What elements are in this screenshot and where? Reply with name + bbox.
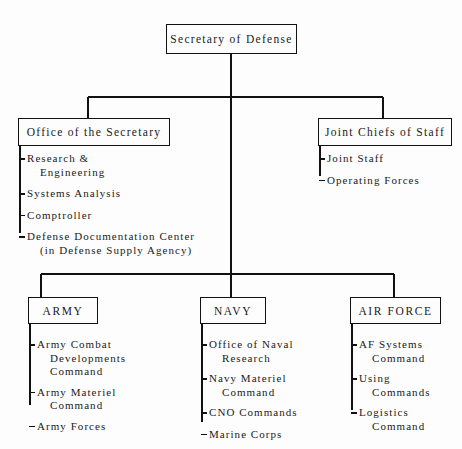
list-tick	[319, 180, 325, 182]
list-item[interactable]: CNO Commands	[201, 406, 298, 420]
list-item[interactable]: Joint Staff	[319, 152, 420, 166]
item-line-1: Marine Corps	[209, 428, 282, 440]
list-item[interactable]: Comptroller	[19, 209, 195, 223]
list-item[interactable]: Army Combat Developments Command	[29, 338, 126, 379]
list-item[interactable]: AF Systems Command	[351, 338, 431, 365]
list-tick	[19, 236, 25, 238]
node-army[interactable]: ARMY	[28, 297, 98, 324]
node-label: Secretary of Defense	[170, 33, 292, 45]
item-line-1: Operating Forces	[327, 174, 420, 186]
node-label: NAVY	[214, 305, 252, 317]
item-line-1: Defense Documentation Center	[27, 230, 195, 242]
node-label: ARMY	[43, 305, 84, 317]
list-item[interactable]: Logistics Command	[351, 406, 431, 433]
sub-list-navy: Office of Naval Research Navy Materiel C…	[201, 324, 298, 441]
list-item[interactable]: Operating Forces	[319, 174, 420, 188]
node-office-of-the-secretary[interactable]: Office of the Secretary	[18, 118, 170, 146]
list-item[interactable]: Research & Engineering	[19, 152, 195, 179]
sub-list-army: Army Combat Developments Command Army Ma…	[29, 324, 126, 433]
item-line-2: (in Defense Supply Agency)	[27, 244, 195, 258]
list-tick	[29, 344, 35, 346]
item-line-1: Army Materiel	[37, 386, 116, 398]
node-secretary-of-defense[interactable]: Secretary of Defense	[166, 24, 297, 54]
list-tick	[319, 158, 325, 160]
list-tick	[29, 426, 35, 428]
item-line-1: AF Systems	[359, 338, 423, 350]
item-line-1: CNO Commands	[209, 406, 298, 418]
list-item[interactable]: Army Materiel Command	[29, 386, 126, 413]
item-line-2: Developments	[37, 352, 126, 366]
list-item[interactable]: Using Commands	[351, 372, 431, 399]
item-line-2: Research	[209, 352, 298, 366]
item-line-1: Logistics	[359, 406, 409, 418]
list-tick	[201, 378, 207, 380]
list-item[interactable]: Marine Corps	[201, 428, 298, 442]
node-navy[interactable]: NAVY	[200, 297, 266, 324]
item-line-1: Comptroller	[27, 209, 92, 221]
node-label: Joint Chiefs of Staff	[325, 126, 445, 138]
list-tick	[19, 158, 25, 160]
item-line-1: Systems Analysis	[27, 187, 121, 199]
sub-list-air-force: AF Systems Command Using Commands Logist…	[351, 324, 431, 433]
list-item[interactable]: Systems Analysis	[19, 187, 195, 201]
item-line-2: Command	[37, 399, 126, 413]
list-tick	[19, 215, 25, 217]
list-tick	[19, 193, 25, 195]
list-item[interactable]: Navy Materiel Command	[201, 372, 298, 399]
org-chart: Secretary of Defense Office of the Secre…	[0, 0, 462, 449]
list-tick	[351, 378, 357, 380]
item-line-1: Army Combat	[37, 338, 112, 350]
item-line-2: Commands	[359, 386, 431, 400]
item-line-1: Using	[359, 372, 391, 384]
item-line-2: Command	[209, 386, 298, 400]
sub-list-office-of-the-secretary: Research & Engineering Systems Analysis …	[19, 146, 195, 257]
list-tick	[29, 392, 35, 394]
item-line-1: Navy Materiel	[209, 372, 287, 384]
list-tick	[201, 434, 207, 436]
item-line-2: Engineering	[27, 166, 195, 180]
item-line-1: Research &	[27, 152, 89, 164]
item-line-1: Army Forces	[37, 420, 106, 432]
list-tick	[201, 412, 207, 414]
item-line-3: Command	[37, 365, 126, 379]
list-item[interactable]: Defense Documentation Center (in Defense…	[19, 230, 195, 257]
node-label: AIR FORCE	[358, 305, 432, 317]
item-line-1: Joint Staff	[327, 152, 384, 164]
item-line-2: Command	[359, 420, 431, 434]
list-item[interactable]: Army Forces	[29, 420, 126, 434]
list-tick	[351, 344, 357, 346]
node-label: Office of the Secretary	[27, 126, 162, 138]
item-line-2: Command	[359, 352, 431, 366]
node-joint-chiefs-of-staff[interactable]: Joint Chiefs of Staff	[318, 118, 452, 146]
node-air-force[interactable]: AIR FORCE	[350, 297, 441, 324]
sub-list-joint-chiefs-of-staff: Joint Staff Operating Forces	[319, 146, 420, 187]
list-tick	[351, 412, 357, 414]
list-tick	[201, 344, 207, 346]
list-item[interactable]: Office of Naval Research	[201, 338, 298, 365]
item-line-1: Office of Naval	[209, 338, 294, 350]
